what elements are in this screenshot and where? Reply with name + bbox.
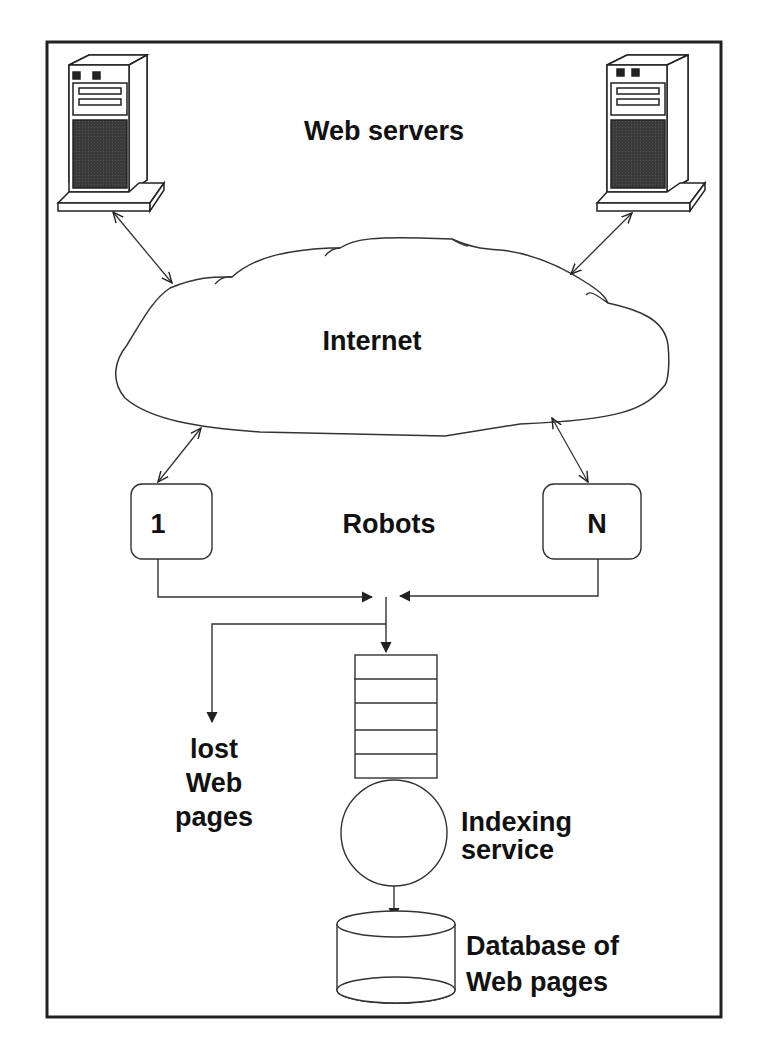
lost-pages-label-line1: lost	[190, 734, 238, 764]
indexing-label-line1: Indexing	[461, 807, 572, 837]
lost-pages-label-line2: Web	[186, 768, 243, 798]
internet-label: Internet	[322, 326, 421, 356]
server-icon-left	[58, 55, 164, 211]
edge-internet-robot-1	[158, 428, 201, 482]
robots-label: Robots	[343, 509, 436, 539]
robot-1-label: 1	[150, 509, 165, 539]
lost-pages-label-line3: pages	[175, 802, 253, 832]
web-servers-label: Web servers	[304, 116, 464, 146]
edge-robot-1-merge	[158, 559, 372, 597]
indexing-service-circle	[341, 780, 447, 886]
robot-n-label: N	[587, 509, 607, 539]
indexing-label-line2: service	[461, 835, 554, 865]
edge-server-right-internet	[571, 213, 632, 274]
server-icon-right	[597, 55, 705, 211]
diagram-canvas: Web servers Internet 1 N Robots lost Web…	[0, 0, 758, 1061]
edge-internet-robot-n	[552, 418, 588, 482]
queue-stack	[354, 655, 437, 778]
database-cylinder	[337, 911, 455, 1003]
robot-1-box	[131, 484, 212, 559]
database-label-line2: Web pages	[466, 967, 608, 997]
edge-robot-n-merge	[400, 559, 598, 596]
edge-server-left-internet	[113, 212, 172, 283]
database-label-line1: Database of	[466, 931, 620, 961]
